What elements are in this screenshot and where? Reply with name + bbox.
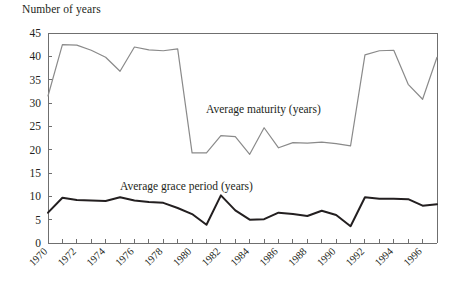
x-tick-label: 1988 [286,246,309,269]
y-tick-label: 35 [30,74,42,86]
x-tick-label: 1982 [200,246,223,269]
x-tick-label: 1976 [113,246,136,269]
x-tick-label: 1992 [344,246,367,269]
axis-frame [48,33,437,243]
x-tick-label: 1990 [315,246,338,269]
x-tick-label: 1996 [401,246,424,269]
y-tick-label: 20 [30,144,42,156]
annotation-average-grace-period: Average grace period (years) [120,180,253,193]
y-tick-label: 25 [30,120,42,132]
y-tick-label: 5 [35,214,41,226]
x-tick-label: 1970 [27,246,50,269]
x-tick-label: 1974 [84,245,107,268]
y-tick-label: 45 [30,27,42,39]
series-lines [48,45,437,227]
x-axis-ticks [48,239,437,243]
x-tick-label: 1986 [257,246,280,269]
annotation-average-maturity: Average maturity (years) [206,103,321,116]
y-tick-label: 40 [30,50,42,62]
y-axis-ticks: 051015202530354045 [30,27,53,249]
x-tick-label: 1994 [373,245,396,268]
y-tick-label: 10 [30,190,42,202]
line-chart-plot: 051015202530354045 197019721974197619781… [0,0,458,283]
x-tick-label: 1978 [142,246,165,269]
chart-figure: Number of years 051015202530354045 19701… [0,0,458,283]
x-tick-label: 1984 [228,245,251,268]
x-axis-labels: 1970197219741976197819801982198419861988… [27,245,424,268]
y-tick-label: 15 [30,167,42,179]
series-line [48,45,437,155]
x-tick-label: 1980 [171,246,194,269]
x-tick-label: 1972 [56,246,79,269]
y-tick-label: 30 [30,97,42,109]
series-line [48,195,437,226]
